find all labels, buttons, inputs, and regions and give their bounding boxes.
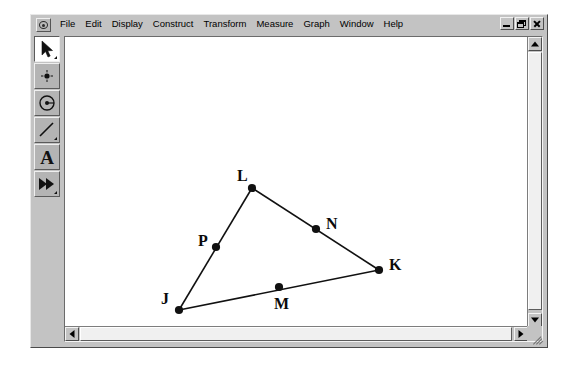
point-label-P[interactable]: P [198,233,208,249]
flyout-indicator-icon [54,191,57,194]
selection-arrow-tool[interactable] [34,36,60,62]
minimize-button[interactable] [500,17,514,30]
flyout-indicator-icon [54,137,57,140]
point-label-M[interactable]: M [274,296,289,312]
point-N[interactable] [312,225,320,233]
point-P[interactable] [212,243,220,251]
point-icon [35,64,59,88]
close-button[interactable] [530,17,544,30]
menu-item-window[interactable]: Window [335,17,379,32]
scroll-up-button[interactable] [528,37,542,51]
sketch-canvas[interactable]: LPNKJM [65,37,528,327]
point-label-N[interactable]: N [326,216,338,232]
window-controls [500,17,544,30]
vertical-scroll-thumb[interactable] [528,52,542,310]
straightedge-tool[interactable] [34,117,60,143]
tool-palette: A [34,36,60,196]
application-window: File Edit Display Construct Transform Me… [30,14,548,348]
point-L[interactable] [248,184,256,192]
screenshot-root: File Edit Display Construct Transform Me… [0,0,573,372]
point-label-J[interactable]: J [161,291,169,307]
sketch-canvas-frame: LPNKJM [64,36,543,342]
resize-grip[interactable] [532,332,545,345]
scroll-right-button[interactable] [514,327,528,341]
restore-icon [516,18,528,29]
text-tool[interactable]: A [34,144,60,170]
point-M[interactable] [275,283,283,291]
compass-circle-tool[interactable] [34,90,60,116]
menu-item-transform[interactable]: Transform [199,17,252,32]
point-J[interactable] [175,306,183,314]
sketchpad-app-icon[interactable] [36,18,51,32]
scroll-left-button[interactable] [65,327,79,341]
menu-item-measure[interactable]: Measure [251,17,298,32]
custom-tool[interactable] [34,171,60,197]
menu-item-construct[interactable]: Construct [148,17,199,32]
point-label-L[interactable]: L [237,168,248,184]
point-K[interactable] [375,266,383,274]
scroll-down-arrow-icon [531,318,539,323]
horizontal-scroll-thumb[interactable] [80,327,512,341]
close-icon [531,18,543,29]
point-tool[interactable] [34,63,60,89]
menu-item-graph[interactable]: Graph [298,17,334,32]
point-label-K[interactable]: K [389,257,401,273]
menu-item-help[interactable]: Help [379,17,409,32]
restore-button[interactable] [515,17,529,30]
letter-a-icon: A [35,145,59,169]
geometry-figure [65,37,528,327]
menu-item-edit[interactable]: Edit [80,17,106,32]
svg-text:A: A [40,147,54,168]
scroll-left-arrow-icon [70,330,75,338]
minimize-icon [501,18,513,29]
menu-item-file[interactable]: File [55,17,80,32]
menu-bar: File Edit Display Construct Transform Me… [31,15,547,34]
scroll-up-arrow-icon [531,42,539,47]
horizontal-scrollbar[interactable] [65,326,528,341]
menu-item-display[interactable]: Display [107,17,148,32]
flyout-indicator-icon [54,56,57,59]
circle-icon [35,91,59,115]
vertical-scrollbar[interactable] [527,37,542,327]
scroll-down-button[interactable] [528,313,542,327]
scroll-right-arrow-icon [519,330,524,338]
